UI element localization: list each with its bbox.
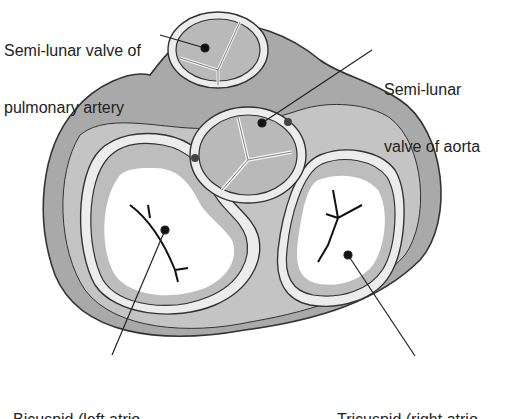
label-line: Semi-lunar (384, 80, 480, 99)
label-line: pulmonary artery (4, 98, 141, 117)
pulmonary-valve (168, 12, 268, 88)
label-line: Bicuspid (left atrio- (13, 410, 146, 419)
aortic-valve (190, 107, 306, 203)
label-pulmonary-valve: Semi-lunar valve of pulmonary artery (4, 3, 141, 136)
label-tricuspid-valve: Tricuspid (right atrio- ventricular valv… (337, 372, 483, 419)
label-line: Semi-lunar valve of (4, 41, 141, 60)
label-bicuspid-valve: Bicuspid (left atrio- ventricular valve) (13, 372, 146, 419)
label-line: valve of aorta (384, 137, 480, 156)
label-line: Tricuspid (right atrio- (337, 410, 483, 419)
label-aortic-valve: Semi-lunar valve of aorta (384, 42, 480, 175)
